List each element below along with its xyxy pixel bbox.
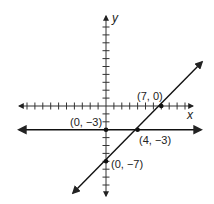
x-axis-label: x [186, 108, 194, 122]
point-0-minus-7 [104, 159, 109, 164]
label-4-minus-3: (4, −3) [139, 134, 171, 146]
label-7-0: (7, 0) [137, 90, 163, 102]
point-4-minus-3 [135, 127, 140, 132]
point-0-minus-3 [104, 127, 109, 132]
label-0-minus-3: (0, −3) [70, 116, 102, 128]
point-7-0 [159, 104, 164, 109]
label-0-minus-7: (0, −7) [111, 158, 143, 170]
y-axis-label: y [111, 11, 119, 25]
coordinate-plane: y x (7, 0) (0, −3) (4, −3) (0, −7) [0, 0, 214, 204]
